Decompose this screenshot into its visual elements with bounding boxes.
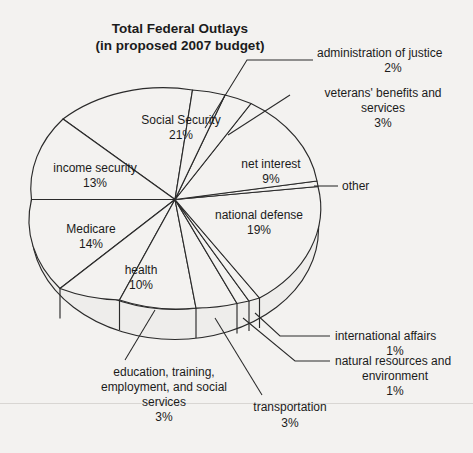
label-medicare-pct: 14% [79, 237, 103, 251]
label-veterans-pct: 3% [374, 116, 392, 130]
pie-chart-figure: Total Federal Outlays (in proposed 2007 … [0, 0, 473, 453]
label-income-security-pct: 13% [83, 176, 107, 190]
leader-natural-resources [243, 318, 330, 361]
label-education-line1: education, training, [113, 365, 214, 379]
label-veterans-line2: services [361, 101, 405, 115]
label-net-interest-pct: 9% [262, 172, 280, 186]
label-transportation-pct: 3% [281, 416, 299, 430]
label-international-affairs: international affairs [335, 329, 436, 343]
label-social-security-pct: 21% [169, 128, 193, 142]
label-administration-of-justice-pct: 2% [384, 61, 402, 75]
label-medicare: Medicare [66, 222, 116, 236]
label-health-pct: 10% [129, 278, 153, 292]
label-education-line3: services [142, 395, 186, 409]
pie-chart-page: Total Federal Outlays (in proposed 2007 … [0, 0, 473, 453]
label-education-line2: employment, and social [101, 380, 227, 394]
chart-title-line2: (in proposed 2007 budget) [96, 38, 265, 53]
chart-title-line1: Total Federal Outlays [112, 21, 248, 36]
label-social-security: Social Security [141, 113, 220, 127]
label-national-defense: national defense [215, 208, 303, 222]
label-administration-of-justice: administration of justice [317, 46, 443, 60]
label-natural-resources-line1: natural resources and [335, 354, 451, 368]
label-health: health [125, 263, 158, 277]
label-veterans-line1: veterans' benefits and [324, 86, 441, 100]
label-other: other [342, 179, 369, 193]
label-natural-resources-pct: 1% [386, 384, 404, 398]
label-net-interest: net interest [241, 157, 301, 171]
label-income-security: income security [53, 161, 136, 175]
label-national-defense-pct: 19% [247, 223, 271, 237]
label-natural-resources-line2: environment [362, 369, 429, 383]
label-transportation: transportation [253, 400, 326, 414]
label-education-pct: 3% [155, 410, 173, 424]
leader-international-affairs [255, 313, 330, 336]
